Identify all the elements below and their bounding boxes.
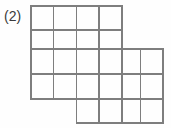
grid-line-vertical: [140, 48, 141, 123]
grid-cell: [76, 49, 99, 74]
grid-cell: [99, 99, 122, 123]
grid-cell: [31, 6, 54, 30]
grid-cell: [31, 74, 54, 99]
grid-cell: [31, 30, 54, 49]
figure-container: (2): [0, 0, 171, 128]
grid-cell: [99, 49, 122, 74]
grid-cell: [54, 49, 77, 74]
grid-cell: [99, 74, 122, 99]
grid-cell: [122, 99, 140, 123]
grid-cell: [122, 49, 140, 74]
grid-cell: [99, 6, 122, 30]
grid-cell: [54, 30, 77, 49]
grid-cell: [54, 74, 77, 99]
grid-cell: [76, 99, 99, 123]
grid-cell: [99, 30, 122, 49]
grid-cell: [140, 49, 163, 74]
grid-line-horizontal: [30, 98, 163, 99]
grid-line-vertical: [76, 5, 77, 123]
grid-line-vertical: [30, 5, 31, 99]
grid-line-vertical: [53, 5, 54, 99]
grid-cell: [76, 74, 99, 99]
grid-cell: [76, 6, 99, 30]
grid-cell: [31, 49, 54, 74]
grid-cell: [76, 30, 99, 49]
grid-line-horizontal: [30, 48, 163, 49]
grid-cell: [54, 6, 77, 30]
polyomino-grid: [0, 0, 171, 128]
grid-line-horizontal: [76, 122, 164, 123]
grid-line-vertical: [121, 5, 122, 123]
grid-line-vertical: [98, 5, 99, 123]
grid-line-vertical: [162, 48, 163, 123]
grid-line-horizontal: [30, 73, 163, 74]
grid-cell: [122, 74, 140, 99]
grid-cell: [140, 99, 163, 123]
grid-cell: [140, 74, 163, 99]
